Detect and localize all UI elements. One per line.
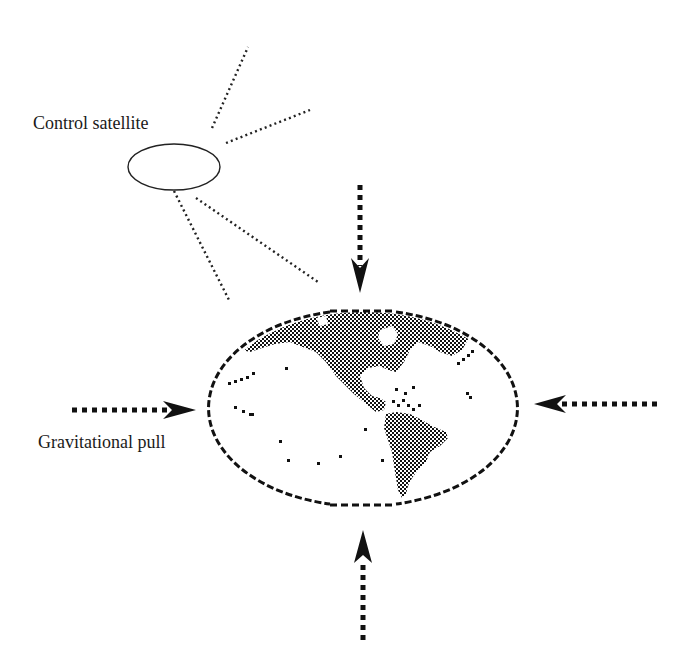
arrow-from-right-icon (534, 395, 658, 413)
arrow-from-top-icon (351, 185, 369, 293)
satellite-icon (128, 144, 220, 190)
signal-ray (196, 198, 318, 282)
satellite-group (128, 47, 318, 300)
signal-ray (212, 47, 248, 128)
gravity-label: Gravitational pull (38, 433, 165, 451)
satellite-label: Control satellite (33, 114, 148, 132)
diagram-canvas (0, 0, 683, 672)
earth-globe-icon (209, 308, 518, 506)
signal-ray (226, 110, 310, 143)
signal-ray (174, 191, 229, 300)
arrow-from-bottom-icon (354, 530, 372, 645)
arrow-from-left-icon (72, 401, 196, 419)
satellite-signal-rays (174, 47, 318, 300)
